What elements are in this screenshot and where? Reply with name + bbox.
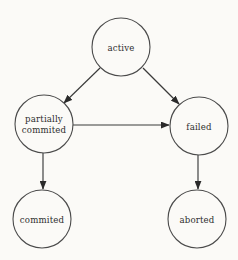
state-diagram-canvas: active partially commited failed commite… [0,0,238,260]
state-diagram: active partially commited failed commite… [0,0,238,260]
node-active[interactable]: active [92,18,150,76]
node-partially-committed-label-line2: commited [22,125,67,135]
node-aborted-label: aborted [180,215,215,225]
node-committed[interactable]: commited [13,190,71,248]
node-aborted[interactable]: aborted [168,190,226,248]
node-failed[interactable]: failed [170,97,228,155]
node-partially-committed-label-line1: partially [25,114,63,124]
edge-active-to-partially-committed [64,68,100,103]
nodes-layer: active partially commited failed commite… [13,18,228,248]
node-committed-label: commited [20,215,65,225]
edge-active-to-failed [143,68,179,104]
node-partially-committed[interactable]: partially commited [15,95,73,153]
node-failed-label: failed [186,122,212,132]
node-active-label: active [108,43,135,53]
